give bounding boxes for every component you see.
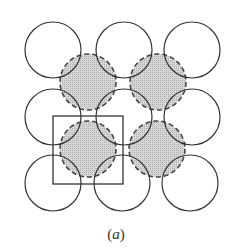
open-circle bbox=[164, 89, 220, 145]
open-circle bbox=[96, 89, 152, 145]
shaded-circle bbox=[60, 54, 116, 110]
circle-packing-diagram bbox=[0, 0, 232, 250]
caption-letter: a bbox=[112, 226, 120, 242]
shaded-circle bbox=[129, 121, 185, 177]
shaded-circle bbox=[60, 121, 116, 177]
open-circle bbox=[164, 22, 220, 78]
shaded-circle bbox=[130, 54, 186, 110]
open-circle bbox=[94, 155, 150, 211]
open-circle bbox=[25, 22, 81, 78]
open-circle bbox=[96, 22, 152, 78]
open-circle bbox=[162, 155, 218, 211]
figure-caption: (a) bbox=[0, 226, 232, 243]
